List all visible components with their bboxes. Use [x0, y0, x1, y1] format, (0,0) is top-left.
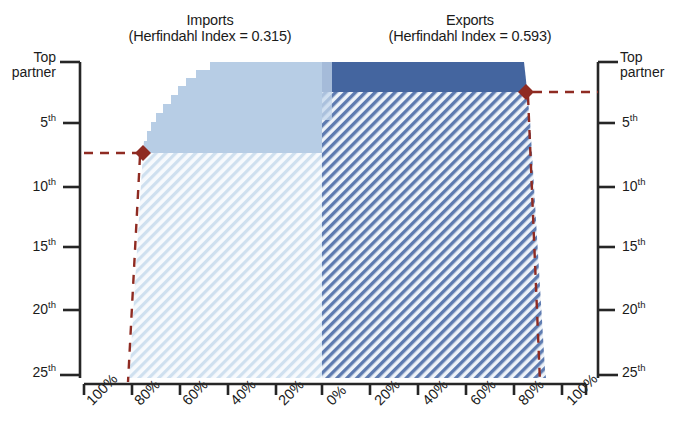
chart-root: Imports (Herfindahl Index = 0.315) Expor… — [0, 0, 676, 443]
imports-solid-area — [143, 62, 322, 153]
y-axis-right — [598, 62, 618, 378]
x-axis — [84, 384, 586, 395]
imports-hatched-area — [129, 153, 322, 378]
y-axis-left — [60, 62, 80, 378]
exports-hatched-area — [322, 92, 546, 378]
plot-area — [0, 0, 676, 443]
exports-center-transition — [322, 62, 332, 120]
exports-solid-area — [322, 62, 527, 92]
